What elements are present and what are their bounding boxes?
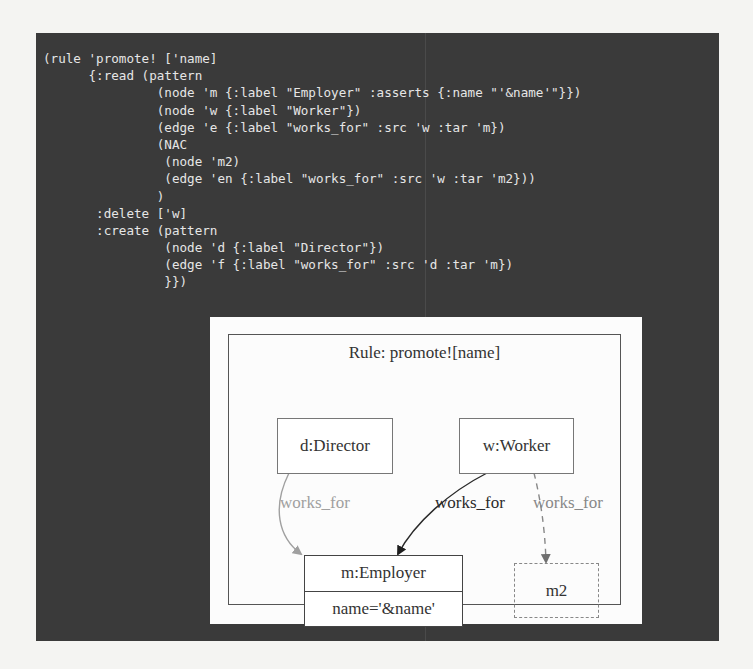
code-block[interactable]: (rule 'promote! ['name] {:read (pattern … — [43, 50, 581, 291]
edge-d-to-m — [279, 473, 301, 554]
code-line: (edge 'f {:label "works_for" :src 'd :ta… — [43, 256, 581, 273]
code-line: (node 'm {:label "Employer" :asserts {:n… — [43, 84, 581, 101]
node-director: d:Director — [277, 418, 393, 474]
code-editor-panel: (rule 'promote! ['name] {:read (pattern … — [36, 33, 719, 641]
node-director-label: d:Director — [300, 436, 370, 456]
code-line: (rule 'promote! ['name] — [43, 50, 581, 67]
code-line: (NAC — [43, 136, 581, 153]
node-m2: m2 — [514, 563, 599, 618]
node-worker: w:Worker — [459, 418, 574, 474]
code-line: (edge 'en {:label "works_for" :src 'w :t… — [43, 170, 581, 187]
edge-w-to-m2 — [534, 473, 546, 562]
code-line: ) — [43, 188, 581, 205]
edge-w-to-m — [398, 473, 487, 554]
code-line: (node 'w {:label "Worker"}) — [43, 102, 581, 119]
edge-label-d-m: works_for — [280, 493, 350, 513]
code-line: :delete ['w] — [43, 205, 581, 222]
node-worker-label: w:Worker — [483, 436, 551, 456]
node-employer-attribute: name='&name' — [305, 591, 462, 627]
rule-diagram: Rule: promote![name] d:Direct — [210, 317, 642, 624]
code-line: {:read (pattern — [43, 67, 581, 84]
edge-label-w-m: works_for — [435, 493, 505, 513]
node-m2-label: m2 — [546, 581, 568, 601]
code-line: :create (pattern — [43, 222, 581, 239]
node-employer: m:Employer name='&name' — [304, 555, 463, 627]
code-line: (node 'd {:label "Director"}) — [43, 239, 581, 256]
code-line: }}) — [43, 273, 581, 290]
edge-label-w-m2: works_for — [533, 493, 603, 513]
code-line: (node 'm2) — [43, 153, 581, 170]
code-line: (edge 'e {:label "works_for" :src 'w :ta… — [43, 119, 581, 136]
node-employer-label: m:Employer — [305, 556, 462, 591]
